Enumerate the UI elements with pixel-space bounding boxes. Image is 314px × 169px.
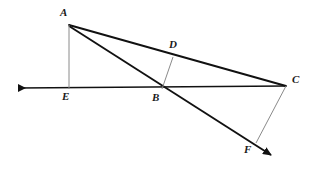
- geometry-figure: A D C E B F: [0, 0, 314, 169]
- segment-c-f: [256, 86, 286, 143]
- segment-a-c: [69, 25, 286, 86]
- vertex-label-d: D: [169, 39, 177, 50]
- vertex-label-c: C: [292, 74, 299, 85]
- geometry-canvas: [0, 0, 314, 169]
- vertex-label-b: B: [152, 92, 159, 103]
- segment-d-b: [162, 57, 173, 89]
- vertex-label-e: E: [62, 91, 69, 102]
- ray-horizontal-left: [18, 86, 286, 88]
- vertex-label-f: F: [244, 144, 251, 155]
- vertex-label-a: A: [60, 7, 67, 18]
